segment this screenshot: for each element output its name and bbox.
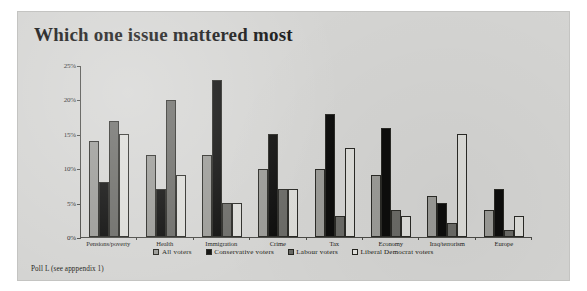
- bar: [109, 121, 119, 237]
- y-axis-tick-mark: [77, 238, 81, 239]
- bar: [156, 189, 166, 237]
- legend-label: Liberal Democrat voters: [361, 248, 434, 256]
- legend-swatch-icon: [352, 249, 358, 255]
- chart-plot-area: 0%5%10%15%20%25%: [80, 66, 532, 238]
- bar: [401, 216, 411, 237]
- bar-group: [363, 66, 419, 237]
- bar: [222, 203, 232, 237]
- x-axis-category-label: Tax: [306, 240, 363, 247]
- x-axis-category-label: Crime: [250, 240, 307, 247]
- bar-group: [81, 66, 137, 237]
- bar: [146, 155, 156, 237]
- bar: [447, 223, 457, 237]
- bar: [335, 216, 345, 237]
- y-axis-tick-label: 20%: [64, 96, 76, 104]
- bar-group: [307, 66, 363, 237]
- bar: [315, 169, 325, 237]
- bar: [166, 100, 176, 237]
- bar: [288, 189, 298, 237]
- x-axis-category-labels: Pensions/povertyHealthImmigrationCrimeTa…: [80, 240, 532, 247]
- legend-item: Liberal Democrat voters: [352, 248, 434, 256]
- bar-group: [250, 66, 306, 237]
- legend-swatch-icon: [206, 249, 212, 255]
- x-axis-category-label: Immigration: [193, 240, 250, 247]
- bar: [202, 155, 212, 237]
- bar-groups-container: [81, 66, 532, 237]
- y-axis-tick-label: 15%: [64, 131, 76, 139]
- y-axis-tick-label: 5%: [67, 200, 76, 208]
- bar: [89, 141, 99, 237]
- bar: [258, 169, 268, 237]
- source-note: Poll L (see apppendix 1): [31, 265, 104, 273]
- bar: [381, 128, 391, 237]
- bar: [514, 216, 524, 237]
- bar: [325, 114, 335, 237]
- legend-label: All voters: [162, 248, 192, 256]
- poster-page: Which one issue mattered most 0%5%10%15%…: [18, 12, 569, 280]
- legend-swatch-icon: [288, 249, 294, 255]
- bar: [119, 134, 129, 237]
- bar-group: [419, 66, 475, 237]
- bar: [457, 134, 467, 237]
- bar: [212, 80, 222, 237]
- bar-group: [194, 66, 250, 237]
- chart-legend: All votersConservative votersLabour vote…: [18, 248, 569, 256]
- legend-label: Labour voters: [296, 248, 338, 256]
- bar: [99, 182, 109, 237]
- legend-item: Conservative voters: [206, 248, 274, 256]
- bar: [484, 210, 494, 237]
- y-axis-tick-label: 0%: [67, 234, 76, 242]
- y-axis-tick-label: 25%: [64, 62, 76, 70]
- bar: [232, 203, 242, 237]
- bar: [268, 134, 278, 237]
- y-axis-tick-label: 10%: [64, 165, 76, 173]
- bar: [278, 189, 288, 237]
- x-axis-category-label: Economy: [363, 240, 420, 247]
- legend-item: All voters: [153, 248, 191, 256]
- y-axis-tick-labels: 0%5%10%15%20%25%: [50, 66, 76, 238]
- page-title: Which one issue mattered most: [34, 24, 293, 46]
- bar-group: [137, 66, 193, 237]
- bar: [437, 203, 447, 237]
- bar: [391, 210, 401, 237]
- bar: [427, 196, 437, 237]
- x-axis-category-label: Health: [137, 240, 194, 247]
- bar: [176, 175, 186, 237]
- bar: [504, 230, 514, 237]
- legend-label: Conservative voters: [214, 248, 274, 256]
- x-axis-category-label: Europe: [476, 240, 533, 247]
- legend-swatch-icon: [153, 249, 159, 255]
- bar-group: [476, 66, 532, 237]
- bar: [345, 148, 355, 237]
- bar: [371, 175, 381, 237]
- x-axis-category-label: Iraq/terrorism: [419, 240, 476, 247]
- bar: [494, 189, 504, 237]
- legend-item: Labour voters: [288, 248, 338, 256]
- x-axis-category-label: Pensions/poverty: [80, 240, 137, 247]
